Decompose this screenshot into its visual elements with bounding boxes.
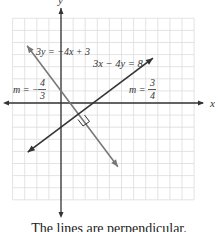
coordinate-plane-diagram: x y 3y = −4x + 3 3x − 4y = 8 m = − 4 3 m… [0,0,218,232]
slope-prefix-line-a: m = − [13,84,39,95]
y-axis-arrow-up [59,8,64,14]
slope-denominator-line-a: 3 [39,90,45,101]
equation-line-b: 3x − 4y = 8 [92,58,143,69]
equation-label-line-b: 3x − 4y = 8 [92,58,143,69]
caption: The lines are perpendicular. [0,221,218,232]
slope-numerator-line-b: 3 [149,77,155,88]
x-axis-arrow-right [198,101,204,106]
slope-label-line-a: m = − 4 3 [13,77,46,101]
slope-label-line-b: m = 3 4 [129,77,156,101]
equation-label-line-a: 3y = −4x + 3 [35,46,90,57]
slope-numerator-line-a: 4 [40,77,45,88]
slope-denominator-line-b: 4 [150,90,155,101]
y-axis-label: y [57,0,63,6]
x-axis-arrow-left [3,101,9,106]
slope-prefix-line-b: m = [129,84,145,95]
y-axis-arrow-down [59,212,64,218]
x-axis-label: x [209,97,215,109]
equation-line-a: 3y = −4x + 3 [35,46,90,57]
